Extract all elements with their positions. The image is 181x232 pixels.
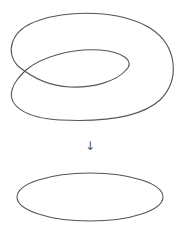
down-arrow-icon: ↓ (84, 139, 96, 153)
diagram-canvas (0, 0, 181, 232)
top-curve (11, 13, 173, 120)
bottom-ellipse (17, 173, 163, 221)
